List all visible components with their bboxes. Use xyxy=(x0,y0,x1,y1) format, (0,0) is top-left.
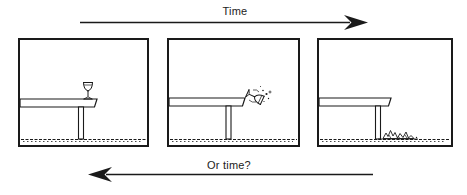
time-arrow-left-icon xyxy=(0,158,467,195)
droplet-icon xyxy=(265,93,267,95)
wine-glass-on-table-drawing xyxy=(20,40,147,145)
time-arrow-right-icon xyxy=(0,0,467,36)
broken-glass-icon xyxy=(378,131,418,140)
droplet-icon xyxy=(260,86,261,87)
time-arrow-figure: Time Or time? xyxy=(0,0,467,195)
droplet-icon xyxy=(268,98,269,99)
wine-glass-falling-drawing xyxy=(169,40,298,145)
panel-1 xyxy=(18,38,149,147)
panel-3 xyxy=(317,38,453,147)
wine-glass-shattered-drawing xyxy=(319,40,451,145)
droplet-icon xyxy=(269,91,271,93)
wine-glass-icon xyxy=(84,83,93,100)
droplet-icon xyxy=(262,90,264,92)
droplet-icon xyxy=(263,101,264,102)
panel-2 xyxy=(167,38,300,147)
